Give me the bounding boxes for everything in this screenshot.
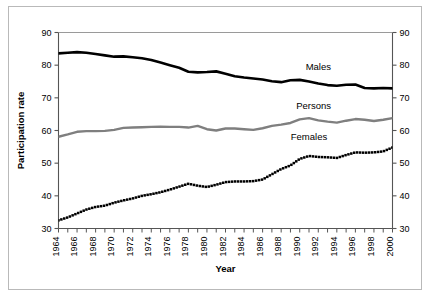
series-point [234, 180, 237, 183]
series-point [297, 158, 300, 161]
x-tick-label: 1970 [106, 237, 116, 257]
series-point [295, 160, 298, 163]
series-point [199, 185, 202, 188]
series-point [117, 200, 120, 203]
series-point [277, 170, 280, 173]
series-point [388, 147, 391, 150]
series-point [158, 191, 161, 194]
series-point [315, 155, 318, 158]
series-point [386, 149, 389, 152]
x-tick-label: 1986 [255, 237, 265, 257]
x-tick-label: 1972 [125, 237, 135, 257]
x-axis-title: Year [215, 263, 235, 274]
y-tick-label-left: 40 [41, 191, 51, 201]
y-tick-label-right: 70 [400, 93, 410, 103]
series-males [59, 52, 393, 88]
x-tick-label: 1968 [88, 237, 98, 257]
series-point [246, 180, 249, 183]
y-tick-label-left: 70 [41, 93, 51, 103]
series-point [164, 190, 167, 193]
series-point [258, 179, 261, 182]
x-tick-label: 1988 [273, 237, 283, 257]
series-point [103, 205, 106, 208]
series-point [327, 156, 330, 159]
series-point [205, 186, 208, 189]
series-point [341, 155, 344, 158]
series-point [306, 155, 309, 158]
series-point [196, 184, 199, 187]
series-point [368, 151, 371, 154]
x-tick-label: 1976 [162, 237, 172, 257]
series-point [100, 205, 103, 208]
series-point [285, 166, 288, 169]
series-point [132, 197, 135, 200]
x-tick-label: 1978 [180, 237, 190, 257]
series-point [350, 152, 353, 155]
x-tick-label: 1994 [329, 237, 339, 257]
series-label-persons: Persons [296, 100, 331, 111]
series-point [391, 146, 394, 149]
series-point [362, 151, 365, 154]
series-point [152, 192, 155, 195]
series-point [184, 183, 187, 186]
series-point [135, 196, 138, 199]
series-point [97, 205, 100, 208]
series-point [287, 165, 290, 168]
series-point [143, 194, 146, 197]
y-tick-label-right: 90 [400, 28, 410, 38]
series-point [237, 180, 240, 183]
y-tick-label-right: 80 [400, 60, 410, 70]
series-point [374, 151, 377, 154]
series-point [216, 183, 219, 186]
series-point [187, 183, 190, 186]
series-point [114, 201, 117, 204]
series-point [66, 216, 69, 219]
series-point [279, 168, 282, 171]
y-tick-label-right: 40 [400, 191, 410, 201]
x-tick-label: 1964 [51, 237, 61, 257]
series-point [225, 181, 228, 184]
series-point [290, 164, 293, 167]
series-label-females: Females [291, 131, 328, 142]
series-point [71, 214, 74, 217]
y-tick-label-right: 30 [400, 224, 410, 234]
series-point [261, 178, 264, 181]
series-point [140, 195, 143, 198]
x-tick-label: 1984 [236, 237, 246, 257]
series-point [219, 182, 222, 185]
y-tick-label-left: 80 [41, 60, 51, 70]
participation-rate-line-chart: 3040506070809030405060708090196419661968… [0, 0, 434, 302]
series-point [109, 203, 112, 206]
series-point [231, 180, 234, 183]
series-persons [59, 118, 393, 137]
series-point [228, 181, 231, 184]
series-point [263, 177, 266, 180]
series-point [60, 218, 63, 221]
series-point [309, 155, 312, 158]
series-point [91, 207, 94, 210]
series-point [365, 151, 368, 154]
series-point [77, 212, 80, 215]
x-tick-label: 1966 [69, 237, 79, 257]
series-point [222, 182, 225, 185]
series-point [69, 215, 72, 218]
series-point [210, 185, 213, 188]
series-point [126, 198, 129, 201]
series-point [74, 213, 77, 216]
series-point [80, 211, 83, 214]
series-point [202, 185, 205, 188]
series-point [324, 156, 327, 159]
series-point [318, 156, 321, 159]
series-point [207, 185, 210, 188]
series-point [240, 180, 243, 183]
x-tick-label: 1974 [143, 237, 153, 257]
series-point [321, 156, 324, 159]
chart-figure: 3040506070809030405060708090196419661968… [0, 0, 434, 302]
x-tick-label: 1998 [366, 237, 376, 257]
y-axis-title: Participation rate [15, 92, 26, 170]
y-tick-label-right: 60 [400, 126, 410, 136]
series-point [371, 151, 374, 154]
series-point [269, 174, 272, 177]
series-point [190, 183, 193, 186]
series-point [249, 180, 252, 183]
